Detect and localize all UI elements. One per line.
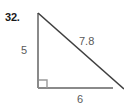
hypotenuse-length-label: 7.8	[79, 36, 94, 47]
triangle-hypotenuse	[38, 13, 124, 89]
horizontal-leg-length-label: 6	[77, 94, 83, 105]
vertical-leg-length-label: 5	[21, 45, 27, 56]
problem-number-label: 32.	[5, 12, 20, 23]
geometry-problem-figure: 32. 5 7.8 6	[0, 0, 124, 111]
right-angle-marker-icon	[39, 80, 47, 88]
